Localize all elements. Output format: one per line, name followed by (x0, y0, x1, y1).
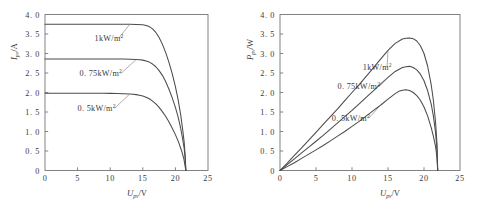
y-tick-label: 2. 0 (25, 89, 40, 98)
series-curve-0-5kw-m2 (280, 90, 438, 171)
series-curve-1kw-m2 (45, 24, 186, 170)
x-tick-label: 15 (383, 174, 392, 183)
series-label-0-5kw-m2: 0. 5kW/m2 (78, 103, 116, 113)
x-tick-label: 0 (278, 174, 283, 183)
series-label-1kw-m2: 1kW/m2 (95, 33, 124, 43)
annotation-leader-line (115, 94, 130, 108)
x-tick-label: 20 (419, 174, 428, 183)
y-tick-label: 3. 5 (25, 30, 40, 39)
y-tick-label: 0 (35, 167, 40, 176)
x-tick-label: 15 (138, 174, 147, 183)
figure-container: 0510152025 00. 51. 01. 52. 02. 53. 03. 5… (0, 0, 479, 210)
x-tick-label: 25 (455, 174, 464, 183)
y-tick-label: 2. 0 (260, 89, 275, 98)
y-tick-label: 0 (270, 167, 275, 176)
y-tick-label: 2. 5 (25, 69, 40, 78)
series-label-1kw-m2: 1kW/m2 (363, 62, 392, 72)
pv-x-axis-label: Upv/V (380, 188, 401, 199)
y-tick-label: 0. 5 (25, 147, 40, 156)
iv-y-tick-labels: 00. 51. 01. 52. 02. 53. 03. 54. 0 (25, 11, 40, 176)
pv-curve-group (280, 38, 438, 171)
iv-chart-svg: 0510152025 00. 51. 01. 52. 02. 53. 03. 5… (0, 0, 239, 210)
annotation-leader-line (121, 59, 136, 73)
y-tick-label: 0. 5 (260, 147, 275, 156)
pv-y-tick-labels: 00. 51. 01. 52. 02. 53. 03. 54. 0 (260, 11, 275, 176)
pv-plot-frame (280, 15, 460, 171)
y-tick-label: 1. 5 (25, 108, 40, 117)
x-tick-label: 10 (106, 174, 115, 183)
pv-y-tick-marks (280, 34, 283, 151)
pv-x-tick-marks (316, 167, 424, 170)
y-tick-label: 1. 0 (25, 128, 40, 137)
y-tick-label: 3. 0 (260, 50, 275, 59)
y-tick-label: 4. 0 (25, 11, 40, 20)
y-tick-label: 1. 5 (260, 108, 275, 117)
x-tick-label: 10 (347, 174, 356, 183)
series-label-0-75kw-m2: 0. 75kW/m2 (80, 68, 123, 78)
iv-y-axis-label: Ipv/A (9, 42, 20, 61)
pv-y-axis-label: Ppv/W (245, 38, 256, 61)
iv-x-axis-label: Upv/V (127, 188, 148, 199)
y-tick-label: 2. 5 (260, 69, 275, 78)
iv-x-tick-labels: 0510152025 (43, 174, 213, 183)
y-tick-label: 3. 0 (25, 50, 40, 59)
iv-x-tick-marks (78, 167, 176, 170)
series-label-0-75kw-m2: 0. 75kW/m2 (338, 81, 381, 91)
pv-x-tick-labels: 0510152025 (278, 174, 465, 183)
annotation-leader-line (369, 105, 381, 118)
iv-curve-group (45, 24, 186, 170)
y-tick-label: 4. 0 (260, 11, 275, 20)
series-label-0-5kw-m2: 0. 5kW/m2 (332, 113, 370, 123)
chart-panel-iv: 0510152025 00. 51. 01. 52. 02. 53. 03. 5… (0, 0, 239, 210)
y-tick-label: 3. 5 (260, 30, 275, 39)
chart-panel-pv: 0510152025 00. 51. 01. 52. 02. 53. 03. 5… (240, 0, 479, 210)
pv-chart-svg: 0510152025 00. 51. 01. 52. 02. 53. 03. 5… (240, 0, 479, 210)
y-tick-label: 1. 0 (260, 128, 275, 137)
x-tick-label: 20 (171, 174, 180, 183)
x-tick-label: 25 (203, 174, 212, 183)
pv-series-annotations: 1kW/m20. 75kW/m20. 5kW/m2 (332, 62, 392, 123)
iv-y-tick-marks (45, 34, 48, 151)
x-tick-label: 5 (75, 174, 80, 183)
x-tick-label: 0 (43, 174, 48, 183)
iv-series-annotations: 1kW/m20. 75kW/m20. 5kW/m2 (78, 33, 124, 113)
x-tick-label: 5 (314, 174, 319, 183)
